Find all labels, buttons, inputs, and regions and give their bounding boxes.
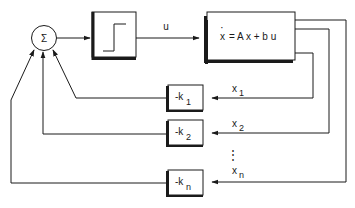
state-label-xn: x n bbox=[232, 165, 244, 180]
svg-text:1: 1 bbox=[186, 97, 191, 107]
svg-text:x: x bbox=[232, 165, 237, 176]
gain-block-k1: -k 1 bbox=[166, 85, 203, 112]
plant-block: x · = A x + b u bbox=[204, 12, 295, 64]
svg-text:x: x bbox=[232, 83, 237, 94]
gain-block-k2: -k 2 bbox=[166, 120, 203, 147]
u-label: u bbox=[163, 21, 169, 32]
derivative-dot: · bbox=[220, 21, 224, 33]
sigma-symbol: Σ bbox=[41, 33, 47, 44]
svg-text:-k: -k bbox=[175, 91, 184, 102]
k2-to-sum-line bbox=[43, 52, 166, 134]
kn-to-sum-line bbox=[11, 50, 166, 183]
relay-block bbox=[92, 12, 137, 60]
svg-text:2: 2 bbox=[186, 132, 191, 142]
svg-text:x: x bbox=[232, 118, 237, 129]
state-label-x1: x 1 bbox=[232, 83, 244, 98]
ellipsis: ⋮ bbox=[227, 148, 239, 162]
plant-equation: = A x + b u bbox=[229, 31, 276, 42]
svg-text:n: n bbox=[239, 170, 244, 180]
state-feedback-diagram: Σ u x · = A x + b u x 1 x 2 ⋮ x n bbox=[0, 0, 355, 208]
svg-text:2: 2 bbox=[239, 123, 244, 133]
summing-junction: Σ bbox=[32, 26, 57, 51]
svg-text:-k: -k bbox=[175, 176, 184, 187]
gain-block-kn: -k n bbox=[166, 170, 203, 197]
svg-text:1: 1 bbox=[239, 88, 244, 98]
state-label-x2: x 2 bbox=[232, 118, 244, 133]
svg-text:n: n bbox=[186, 182, 191, 192]
svg-text:-k: -k bbox=[175, 126, 184, 137]
